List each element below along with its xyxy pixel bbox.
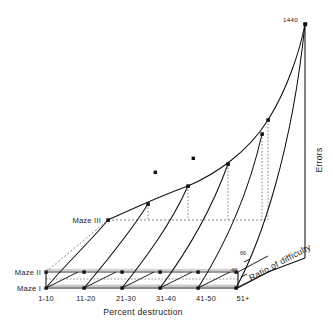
peak-value-label: 1440 [283, 16, 298, 23]
rib-top-marker-2 [146, 202, 150, 206]
rib-1-10 [46, 220, 108, 288]
x-tick-1: 1-10 [38, 294, 54, 303]
rib-21-30 [122, 186, 188, 288]
x-tick-5: 41-50 [196, 294, 216, 303]
x-tick-labels: 1-10 11-20 21-30 31-40 41-50 51+ [38, 294, 249, 303]
rib-top-marker-6 [266, 118, 270, 122]
outlier-markers [154, 157, 195, 174]
x-tick-4: 31-40 [156, 294, 176, 303]
depth-tick-label-40: 40 [231, 267, 237, 273]
maze3-label: Maze III [72, 216, 101, 225]
drop-lines [148, 120, 268, 220]
x-tick-3: 21-30 [116, 294, 136, 303]
x-tick-2: 11-20 [76, 294, 95, 303]
rib-top-marker-5 [260, 132, 264, 136]
errors-axis [268, 24, 305, 272]
depth-tick-label-66: 66 [240, 250, 246, 256]
rib-top-marker-4 [226, 162, 230, 166]
error-curves [46, 24, 305, 288]
outlier-marker-1 [154, 171, 157, 174]
y-axis-title: Errors [314, 147, 324, 172]
outlier-marker-2 [192, 157, 195, 160]
x-tick-6: 51+ [236, 294, 249, 303]
maze1-label: Maze I [17, 284, 41, 293]
maze3-envelope-curve [108, 24, 305, 220]
x-axis-title: Percent destruction [103, 307, 183, 317]
chart-canvas: 1440 Maze III Maze II Maze I 1-10 11-20 … [0, 0, 333, 326]
maze3-reference-line [46, 220, 268, 272]
chart-figure: 1440 Maze III Maze II Maze I 1-10 11-20 … [0, 0, 333, 326]
rib-top-markers [106, 22, 307, 222]
rib-top-marker-3 [186, 184, 190, 188]
maze2-label: Maze II [15, 268, 41, 277]
rib-top-marker-1 [106, 218, 110, 222]
